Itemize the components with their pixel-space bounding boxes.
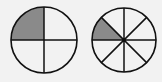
center-point [122, 38, 126, 42]
fraction-diagram [0, 0, 162, 82]
quarters-circle [11, 7, 77, 73]
eighths-circle [92, 8, 156, 72]
